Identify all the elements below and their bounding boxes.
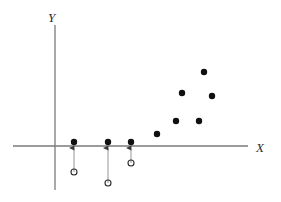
observed-point-marker: [196, 118, 202, 124]
observed-points-group: [71, 69, 215, 145]
plot-canvas: Y X: [0, 0, 281, 202]
censor-arrows-group: [74, 148, 131, 183]
observed-point-marker: [105, 139, 111, 145]
observed-point-marker: [128, 139, 134, 145]
censored-scatter-figure: Y X: [0, 0, 281, 202]
observed-point-marker: [209, 93, 215, 99]
observed-point-marker: [179, 90, 185, 96]
latent-points-group: [71, 160, 134, 186]
observed-point-marker: [71, 139, 77, 145]
observed-point-marker: [201, 69, 207, 75]
observed-point-marker: [173, 118, 179, 124]
axes-group: [13, 25, 248, 190]
y-axis-label: Y: [48, 10, 57, 25]
observed-point-marker: [154, 131, 160, 137]
x-axis-label: X: [255, 140, 265, 155]
